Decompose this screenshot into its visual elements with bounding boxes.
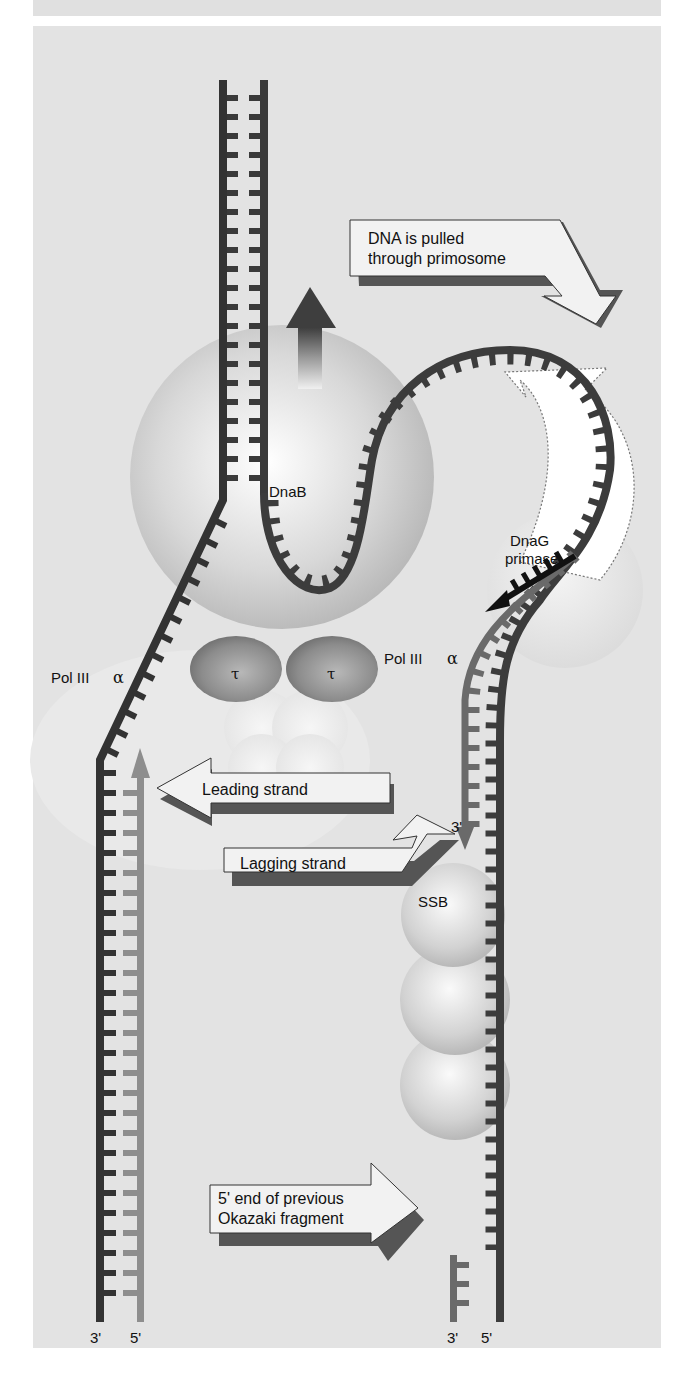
dnab-helicase [130,325,434,629]
end-label-left-3prime: 3' [90,1329,101,1346]
label-ssb: SSB [418,893,448,910]
label-pol3-right-alpha: α [447,649,458,668]
label-lagging-3prime: 3' [451,818,462,835]
callout-dna-pulled-line1: DNA is pulled [368,230,464,247]
end-label-right-5prime: 5' [481,1329,492,1346]
end-label-left-5prime: 5' [130,1329,141,1346]
end-label-right-3prime: 3' [447,1329,458,1346]
label-dnag-line1: DnaG [510,532,549,549]
replisome-diagram: DNA is pulled through primosome Leading … [0,0,681,1376]
callout-lagging-strand-label: Lagging strand [240,855,346,872]
previous-okazaki-fragment [450,1255,469,1322]
label-pol3-left-alpha: α [113,668,124,687]
label-dnag-line2: primase [505,550,558,567]
callout-leading-strand-label: Leading strand [202,781,308,798]
callout-dna-pulled-line2: through primosome [368,250,506,267]
callout-okazaki-line1: 5' end of previous [218,1190,344,1207]
callout-okazaki-line2: Okazaki fragment [218,1210,344,1227]
label-tau-right: τ [327,665,335,683]
label-pol3-left: Pol III [51,669,89,686]
label-pol3-right: Pol III [384,650,422,667]
leading-template-strand [100,493,226,1322]
label-dnab: DnaB [269,483,307,500]
label-tau-left: τ [231,665,239,683]
